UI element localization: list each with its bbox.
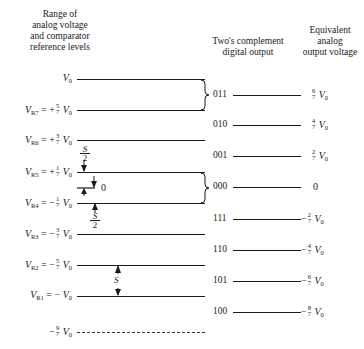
code-011: 011: [213, 89, 227, 99]
code-110: 110: [213, 244, 227, 254]
value-minus-8-7-v0: −87 V0: [301, 305, 324, 318]
value-6-7-v0: 67 V0: [311, 88, 328, 101]
value-4-7-v0: 47 V0: [311, 118, 328, 131]
value-minus-2-7-v0: −27 V0: [301, 212, 324, 225]
output-line-110: [233, 250, 301, 251]
output-line-011: [233, 95, 301, 96]
zero-marker-label: 0: [101, 182, 106, 193]
code-101: 101: [213, 275, 227, 285]
code-100: 100: [213, 306, 227, 316]
output-line-001: [233, 156, 301, 157]
value-2-7-v0: 27 V0: [311, 149, 328, 162]
half-step-lower-label: S 2: [90, 212, 100, 229]
value-minus-4-7-v0: −47 V0: [301, 243, 324, 256]
code-001: 001: [213, 150, 227, 160]
value-minus-6-7-v0: −67 V0: [301, 274, 324, 287]
annotation-arrows: [0, 0, 364, 349]
output-line-010: [233, 125, 301, 126]
output-line-100: [233, 312, 301, 313]
output-line-101: [233, 281, 301, 282]
code-000: 000: [213, 181, 227, 191]
step-label: S: [114, 275, 119, 285]
code-111: 111: [213, 213, 227, 223]
value-zero: 0: [313, 181, 318, 192]
half-step-upper-label: S 2: [80, 145, 90, 162]
output-line-111: [233, 219, 301, 220]
code-010: 010: [213, 119, 227, 129]
output-line-000: [233, 187, 301, 188]
